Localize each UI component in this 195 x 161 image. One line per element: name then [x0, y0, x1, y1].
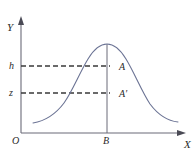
x-tick-label-b: B	[103, 136, 109, 146]
point-label-a: A	[119, 62, 125, 72]
y-tick-label-z: z	[9, 88, 13, 98]
bell-curve-figure: Y X O B h z A A′	[0, 0, 195, 161]
x-axis-arrowhead	[177, 130, 186, 136]
origin-label: O	[12, 136, 19, 146]
x-axis-label: X	[184, 139, 191, 150]
point-label-a-prime: A′	[119, 89, 127, 99]
y-axis-label: Y	[7, 22, 13, 33]
diagram-canvas	[0, 0, 195, 161]
bell-curve-path	[33, 44, 178, 123]
y-axis-arrowhead	[18, 16, 24, 25]
y-tick-label-h: h	[9, 61, 14, 71]
